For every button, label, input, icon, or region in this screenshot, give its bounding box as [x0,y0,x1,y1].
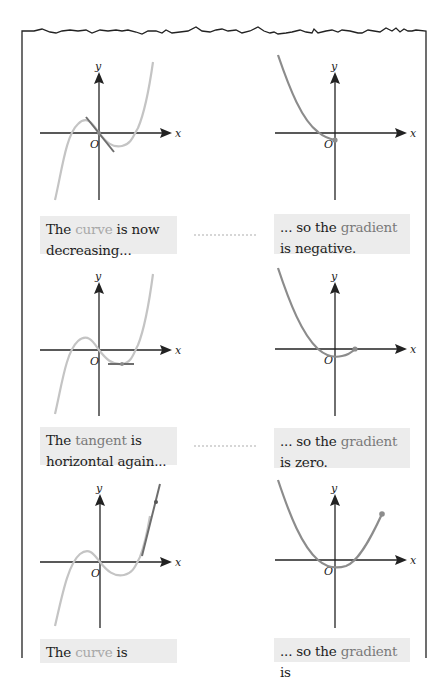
caption-row2-right: ... so the gradient is zero. [274,428,410,468]
caption-row1-left: The curve is now decreasing... [40,216,177,254]
caption-highlight-curve: curve [75,221,112,237]
y-label: y [94,60,102,73]
gradient-curve [278,268,355,357]
x-label: x [410,127,417,140]
gradient-curve [278,55,335,140]
caption-text-post: is zero. [280,454,328,470]
caption-text-pre: The [46,432,75,448]
caption-highlight-gradient: gradient [341,433,398,449]
caption-highlight-gradient: gradient [341,643,398,659]
point-marker [379,511,385,517]
x-label: x [175,127,182,140]
graph-row1-right: x y O [262,50,422,210]
gradient-curve [278,480,382,567]
y-label: y [330,270,338,283]
caption-text-post: is [280,664,291,680]
graph-row2-left: x y O [30,266,190,426]
caption-highlight-curve: curve [75,644,112,660]
caption-row2-left: The tangent is horizontal again... [40,427,177,465]
point-marker [332,137,337,142]
point-marker [120,362,124,366]
cubic-curve [55,516,150,626]
cubic-curve [55,274,153,414]
point-marker [97,131,101,135]
caption-highlight-tangent: tangent [75,432,127,448]
caption-row3-left: The curve is [40,639,177,663]
caption-text-pre: ... so the [280,219,341,235]
dotted-connector [194,445,256,447]
x-label: x [410,554,417,567]
graph-row3-right: x y O [262,478,422,638]
x-label: x [175,556,182,569]
caption-text-pre: ... so the [280,643,341,659]
caption-text-pre: The [46,221,75,237]
caption-row1-right: ... so the gradient is negative. [274,214,410,254]
caption-row3-right: ... so the gradient is [274,638,410,662]
caption-text-pre: ... so the [280,433,341,449]
origin-label: O [90,138,99,151]
caption-highlight-gradient: gradient [341,219,398,235]
x-label: x [410,343,417,356]
graph-row3-left: x y O [30,478,190,638]
tangent-line [142,484,160,556]
dotted-connector [194,234,256,236]
x-label: x [175,344,182,357]
point-marker [352,346,357,351]
y-label: y [330,482,338,495]
graph-row1-left: x y O [30,50,190,210]
caption-text-pre: The [46,644,75,660]
origin-label: O [91,567,100,580]
y-label: y [95,482,103,495]
caption-text-post: is negative. [280,240,356,256]
point-marker [154,500,158,504]
y-label: y [330,60,338,73]
y-label: y [94,270,102,283]
cubic-curve [55,62,153,200]
origin-label: O [90,355,99,368]
caption-text-post: is [113,644,128,660]
graph-row2-right: x y O [262,266,422,426]
